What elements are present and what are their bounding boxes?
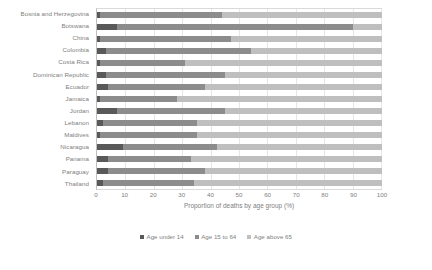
y-axis-label: Nicaragua: [60, 144, 89, 150]
bar-segment: [100, 132, 197, 138]
legend-item[interactable]: Age above 65: [247, 233, 292, 240]
bar-segment: [106, 72, 226, 78]
bars-layer: [97, 9, 382, 189]
bar-row: [97, 36, 382, 42]
bar-segment: [108, 168, 205, 174]
legend-label: Age 15 to 64: [201, 233, 236, 240]
bar-row: [97, 132, 382, 138]
y-axis-label: Jamaica: [66, 96, 89, 102]
bar-row: [97, 60, 382, 66]
bar-row: [97, 84, 382, 90]
bar-segment: [97, 72, 106, 78]
bar-segment: [108, 84, 205, 90]
bar-segment: [97, 144, 123, 150]
bar-row: [97, 108, 382, 114]
bar-segment: [97, 108, 117, 114]
bar-row: [97, 144, 382, 150]
bar-segment: [225, 72, 382, 78]
y-axis-label: Costa Rica: [58, 59, 89, 65]
x-axis-tick-label: 10: [121, 191, 128, 198]
legend-swatch-icon: [195, 235, 199, 239]
y-axis-label: Jordan: [70, 108, 89, 114]
legend-swatch-icon: [247, 235, 251, 239]
bar-segment: [100, 12, 223, 18]
x-axis-tick-label: 80: [321, 191, 328, 198]
bar-row: [97, 156, 382, 162]
bar-segment: [191, 156, 382, 162]
bar-segment: [100, 60, 186, 66]
bar-segment: [97, 156, 108, 162]
x-axis-tick-label: 40: [207, 191, 214, 198]
x-axis-tick-label: 90: [350, 191, 357, 198]
bar-row: [97, 120, 382, 126]
y-axis-label: Lebanon: [65, 120, 89, 126]
bar-segment: [197, 120, 382, 126]
bar-segment: [100, 36, 231, 42]
bar-segment: [194, 180, 382, 186]
chart-legend: Age under 14Age 15 to 64Age above 65: [0, 233, 432, 240]
bar-segment: [103, 180, 194, 186]
x-axis-title: Proportion of deaths by age group (%): [96, 202, 382, 209]
bar-row: [97, 96, 382, 102]
x-axis-tick-label: 70: [293, 191, 300, 198]
y-axis-label: Bosnia and Herzegovina: [20, 11, 89, 17]
y-axis-label: Ecuador: [66, 84, 89, 90]
bar-segment: [103, 120, 197, 126]
bar-segment: [251, 48, 382, 54]
y-axis-label: Panama: [66, 156, 89, 162]
bar-row: [97, 180, 382, 186]
bar-segment: [117, 108, 225, 114]
y-axis-label: China: [73, 35, 89, 41]
bar-segment: [177, 96, 382, 102]
bar-segment: [100, 96, 177, 102]
y-axis-label: Colombia: [62, 47, 89, 53]
bar-segment: [97, 84, 108, 90]
bar-segment: [197, 132, 382, 138]
bar-segment: [123, 144, 217, 150]
x-axis-tick-label: 20: [150, 191, 157, 198]
x-axis-tick-label: 0: [94, 191, 97, 198]
y-axis-label: Paraguay: [62, 169, 89, 175]
legend-label: Age above 65: [254, 233, 292, 240]
y-axis-label: Dominican Republic: [33, 72, 89, 78]
bar-segment: [217, 144, 382, 150]
legend-label: Age under 14: [147, 233, 184, 240]
y-axis-label: Maldives: [64, 132, 89, 138]
y-axis-label: Botswana: [61, 23, 89, 29]
bar-row: [97, 12, 382, 18]
bar-segment: [97, 24, 117, 30]
x-axis-ticks: 0102030405060708090100: [96, 191, 382, 201]
bar-segment: [106, 48, 251, 54]
bar-segment: [185, 60, 382, 66]
bar-segment: [97, 168, 108, 174]
x-axis-tick-label: 30: [178, 191, 185, 198]
x-axis-tick-label: 100: [377, 191, 387, 198]
bar-segment: [353, 24, 382, 30]
bar-segment: [205, 84, 382, 90]
stacked-bar-chart: Bosnia and HerzegovinaBotswanaChinaColom…: [0, 0, 432, 270]
bar-row: [97, 48, 382, 54]
x-axis-tick-label: 60: [264, 191, 271, 198]
bar-segment: [108, 156, 191, 162]
x-axis-tick-label: 50: [236, 191, 243, 198]
bar-segment: [225, 108, 382, 114]
legend-item[interactable]: Age 15 to 64: [195, 233, 237, 240]
bar-segment: [231, 36, 382, 42]
bar-segment: [205, 168, 382, 174]
legend-swatch-icon: [140, 235, 144, 239]
bar-row: [97, 168, 382, 174]
bar-segment: [117, 24, 354, 30]
legend-item[interactable]: Age under 14: [140, 233, 184, 240]
y-axis-label: Thailand: [65, 181, 89, 187]
bar-row: [97, 72, 382, 78]
bar-segment: [97, 48, 106, 54]
bar-segment: [222, 12, 382, 18]
y-axis-labels: Bosnia and HerzegovinaBotswanaChinaColom…: [0, 8, 92, 190]
bar-row: [97, 24, 382, 30]
